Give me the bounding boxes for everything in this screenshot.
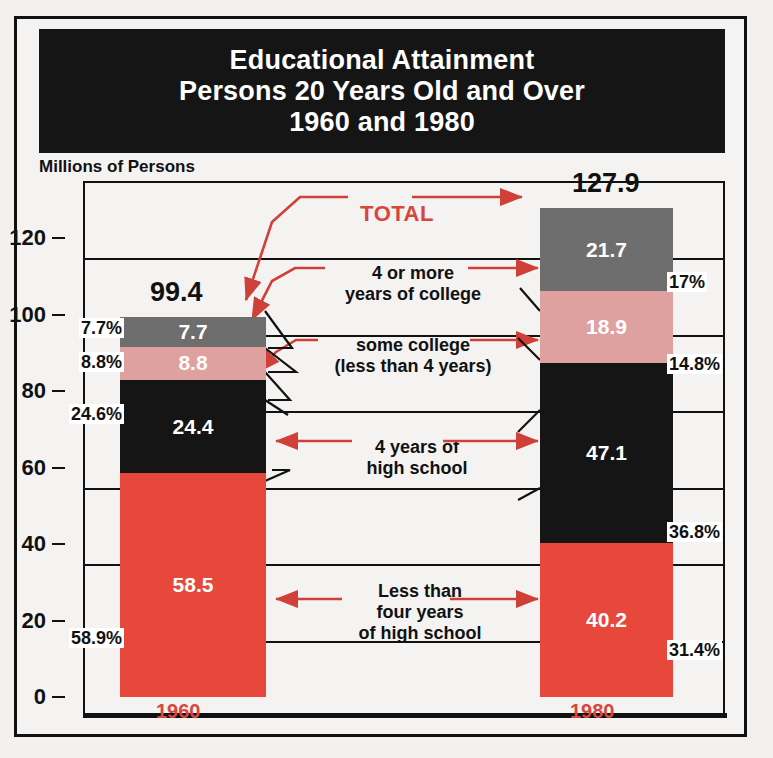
title-banner: Educational Attainment Persons 20 Years … [39,29,725,153]
x-axis-label-1980: 1980 [570,700,615,723]
segment-value-label: 47.1 [586,441,627,465]
segment-percent-label: 8.8% [79,352,124,372]
segment-value-label: 21.7 [586,238,627,262]
segment-percent-label: 7.7% [79,318,124,338]
y-axis-tick [52,543,65,545]
annotation-line: Less than [355,581,485,602]
annotation-line: some college [313,335,513,356]
y-axis-tick [52,467,65,469]
annotation-line: years of college [333,284,493,305]
segment-percent-label: 58.9% [69,628,124,648]
y-axis-tick [52,237,65,239]
title-line-2: Persons 20 Years Old and Over [179,76,585,107]
y-axis-label: 120 [0,225,46,251]
y-axis-tick [52,390,65,392]
chart-page: Educational Attainment Persons 20 Years … [0,0,773,758]
x-axis-label-1960: 1960 [156,700,201,723]
segment-value-label: 24.4 [173,415,214,439]
bar-segment[interactable]: 8.8 [120,347,266,381]
annotation-some-college: some college(less than 4 years) [313,335,513,377]
y-axis-label: 100 [0,302,46,328]
segment-percent-label: 24.6% [69,404,124,424]
segment-percent-label: 31.4% [667,640,722,660]
bar-total-label: 127.9 [572,168,640,199]
y-axis-label: 0 [0,684,46,710]
segment-value-label: 18.9 [586,315,627,339]
segment-value-label: 7.7 [178,320,207,344]
segment-percent-label: 36.8% [667,522,722,542]
annotation-line: high school [357,458,477,479]
y-axis-label: 80 [0,378,46,404]
stacked-bar-1960[interactable]: 58.524.48.87.7 [120,317,266,697]
bar-segment[interactable]: 21.7 [540,208,673,291]
annotation-line: 4 or more [333,263,493,284]
units-caption: Millions of Persons [39,157,195,177]
annotation-4-or-more-years-college: 4 or moreyears of college [333,263,493,305]
annotation-4-years-high-school: 4 years ofhigh school [357,437,477,479]
bar-segment[interactable]: 24.4 [120,380,266,473]
annotation-line: (less than 4 years) [313,356,513,377]
title-line-1: Educational Attainment [230,45,535,76]
bar-segment[interactable]: 7.7 [120,317,266,346]
y-axis-tick [52,696,65,698]
annotation-less-than-four-years-high-school: Less thanfour yearsof high school [355,581,485,644]
annotation-total: TOTAL [357,203,437,224]
bar-segment[interactable]: 18.9 [540,291,673,363]
annotation-line: four years [355,602,485,623]
y-axis-label: 40 [0,531,46,557]
y-axis-label: 20 [0,608,46,634]
bar-segment[interactable]: 47.1 [540,363,673,543]
y-axis-tick [52,314,65,316]
stacked-bar-1980[interactable]: 40.247.118.921.7 [540,208,673,697]
title-line-3: 1960 and 1980 [289,107,475,138]
segment-value-label: 40.2 [586,608,627,632]
annotation-line: 4 years of [357,437,477,458]
y-axis-tick [52,620,65,622]
bar-segment[interactable]: 40.2 [540,543,673,697]
segment-percent-label: 17% [667,272,707,292]
segment-value-label: 58.5 [173,573,214,597]
segment-percent-label: 14.8% [667,354,722,374]
segment-value-label: 8.8 [178,351,207,375]
bar-total-label: 99.4 [150,277,203,308]
bar-segment[interactable]: 58.5 [120,473,266,697]
annotation-line: of high school [355,623,485,644]
y-axis-label: 60 [0,455,46,481]
